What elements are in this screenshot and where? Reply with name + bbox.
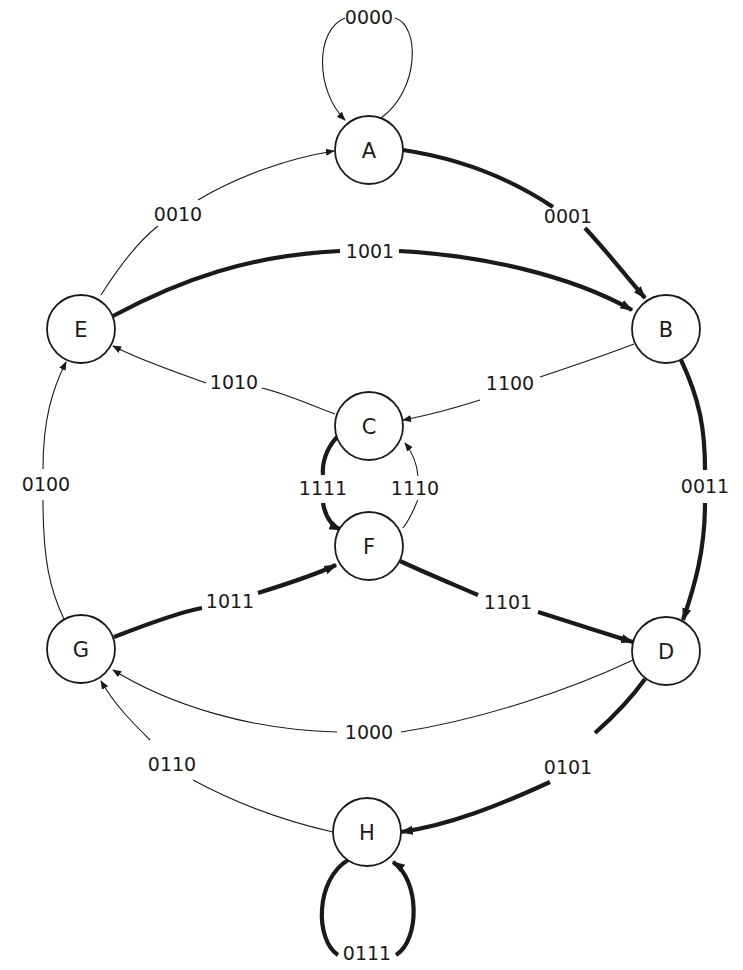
edge-label: 0001 <box>544 205 592 227</box>
state-node-g: G <box>47 615 115 683</box>
edge-label: 1001 <box>346 240 394 262</box>
node-label: C <box>362 415 377 439</box>
edge-line <box>43 362 66 469</box>
transition-D-to-H <box>401 679 645 832</box>
edge-line <box>43 500 64 619</box>
edge-label: 0111 <box>343 942 391 964</box>
edge-label: 1101 <box>484 591 532 613</box>
state-diagram: 0000000100100011010001010110011110001001… <box>0 0 743 970</box>
state-node-d: D <box>632 617 700 685</box>
node-label: B <box>659 318 673 342</box>
edge-line <box>101 226 158 295</box>
edge-line <box>401 660 633 732</box>
transition-A-to-A <box>323 18 413 120</box>
edge-line <box>403 500 418 528</box>
edge-label: 1100 <box>486 372 534 394</box>
edge-line <box>323 503 341 530</box>
edge-label: 0101 <box>544 756 592 778</box>
node-label: D <box>658 640 674 664</box>
state-node-e: E <box>47 295 115 363</box>
edge-line <box>114 608 202 637</box>
edge-line <box>381 18 412 118</box>
edge-line <box>585 228 645 298</box>
transition-A-to-B <box>403 150 645 298</box>
edge-line <box>113 251 340 316</box>
edge-label: 1111 <box>299 477 347 499</box>
edge-line <box>399 251 632 310</box>
state-node-b: B <box>632 295 700 363</box>
node-label: E <box>74 318 87 342</box>
node-label: F <box>363 535 375 559</box>
edge-line <box>101 681 150 740</box>
edge-label: 0110 <box>148 753 196 775</box>
edge-line <box>198 151 334 200</box>
edge-line <box>405 443 418 476</box>
state-node-c: C <box>335 392 403 460</box>
transition-H-to-H <box>322 860 414 955</box>
node-label: H <box>359 821 375 845</box>
node-label: A <box>362 139 377 163</box>
state-node-h: H <box>333 798 401 866</box>
edge-line <box>193 780 333 832</box>
nodes-layer: ABCDEFGH <box>47 116 700 866</box>
edge-line <box>401 782 550 832</box>
edge-line <box>113 670 337 732</box>
edge-line <box>403 150 553 207</box>
edge-line <box>400 561 478 595</box>
edge-line <box>540 344 634 377</box>
edge-label: 1000 <box>345 721 393 743</box>
state-node-f: F <box>335 512 403 580</box>
node-label: G <box>73 638 89 662</box>
edge-line <box>323 437 337 475</box>
edge-line <box>538 612 633 642</box>
edge-line <box>683 503 705 620</box>
edge-line <box>262 388 335 414</box>
edge-label: 0000 <box>345 6 393 28</box>
edge-label: 1010 <box>210 371 258 393</box>
edge-line <box>403 400 480 420</box>
edge-label: 0100 <box>22 473 70 495</box>
edge-line <box>258 565 336 593</box>
state-node-a: A <box>335 116 403 184</box>
edge-line <box>681 360 705 470</box>
edge-label: 1110 <box>391 477 439 499</box>
edge-line <box>595 679 645 733</box>
transition-H-to-G <box>101 681 333 832</box>
edge-label: 0011 <box>681 475 729 497</box>
edge-label: 1011 <box>206 590 254 612</box>
edge-line <box>323 18 346 120</box>
edge-line <box>393 862 414 955</box>
edge-line <box>322 860 348 955</box>
edge-label: 0010 <box>154 203 202 225</box>
edge-line <box>113 346 206 383</box>
